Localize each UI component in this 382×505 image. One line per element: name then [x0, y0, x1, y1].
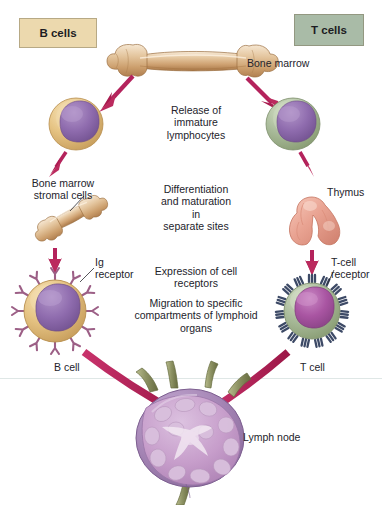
- arrow-bonemarrow-to-bcell: [99, 76, 133, 112]
- immature-t-lymphocyte: [266, 98, 320, 150]
- arrow-thymus-to-tcell: [305, 250, 319, 276]
- stromal-cells-label: Bone marrow stromal cells: [16, 177, 110, 202]
- t-cell-label: T cell: [300, 361, 325, 373]
- lymph-node-icon: [136, 361, 251, 505]
- step-expression-label: Expression of cell receptors: [140, 265, 252, 290]
- ig-receptor-label: Ig receptor: [95, 256, 143, 281]
- bone-marrow-label: Bone marrow: [247, 57, 309, 69]
- arrow-stromal-to-bcell: [48, 248, 62, 274]
- t-cells-header-box: T cells: [294, 14, 364, 46]
- b-cells-header-box: B cells: [19, 18, 97, 48]
- arrow-immature-t-down: [300, 152, 314, 177]
- arrow-immature-b-down: [49, 152, 66, 177]
- b-cells-label: B cells: [39, 27, 76, 39]
- mature-b-cell: [12, 268, 98, 354]
- t-cells-label: T cells: [311, 24, 347, 36]
- mature-t-cell: [276, 275, 348, 347]
- ig-receptor-leader: [80, 268, 94, 282]
- thymus-label: Thymus: [327, 186, 364, 198]
- step-migration-label: Migration to specific compartments of ly…: [124, 297, 268, 334]
- step-differentiation-label: Differentiation and maturation in separa…: [143, 183, 249, 232]
- thymus-icon: [289, 197, 339, 245]
- b-cell-label: B cell: [54, 361, 80, 373]
- step-release-label: Release of immature lymphocytes: [150, 104, 242, 141]
- immature-b-lymphocyte: [49, 98, 103, 150]
- diagram-canvas: B cells T cells Bone marrow Release of i…: [0, 0, 382, 505]
- diagram-artwork: [0, 0, 382, 505]
- tcell-receptor-label: T-cell receptor: [331, 256, 377, 281]
- lymph-node-label: Lymph node: [243, 431, 300, 443]
